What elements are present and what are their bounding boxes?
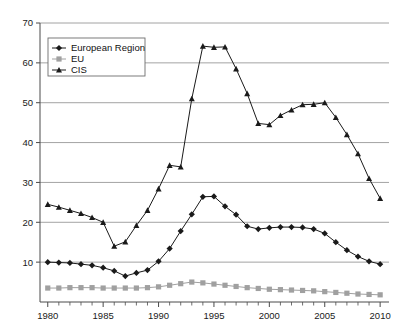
data-point-marker <box>189 279 194 284</box>
data-point-marker <box>67 260 73 266</box>
data-point-marker <box>156 186 162 192</box>
data-point-marker <box>377 195 383 201</box>
data-point-marker <box>200 280 205 285</box>
data-point-marker <box>244 91 250 97</box>
data-point-marker <box>233 66 239 72</box>
y-axis-tick-labels: 10203040506070 <box>22 17 33 267</box>
series-european-region <box>45 193 384 279</box>
x-tick-label: 2010 <box>370 310 391 321</box>
data-point-marker <box>266 225 272 231</box>
data-point-marker <box>299 224 305 230</box>
data-series-group <box>45 43 384 297</box>
data-point-marker <box>277 112 283 118</box>
line-chart: 10203040506070 1980198519901995200020052… <box>0 0 397 330</box>
data-point-marker <box>355 151 361 157</box>
chart-container: 10203040506070 1980198519901995200020052… <box>0 0 397 330</box>
data-point-marker <box>344 291 349 296</box>
data-point-marker <box>144 207 150 213</box>
data-point-marker <box>123 285 128 290</box>
data-point-marker <box>178 228 184 234</box>
x-tick-label: 1985 <box>93 310 114 321</box>
data-point-marker <box>245 285 250 290</box>
y-tick-label: 50 <box>22 97 33 108</box>
data-point-marker <box>234 284 239 289</box>
data-point-marker <box>333 290 338 295</box>
y-tick-label: 10 <box>22 257 33 268</box>
x-tick-label: 1990 <box>148 310 169 321</box>
data-point-marker <box>355 291 360 296</box>
data-point-marker <box>45 201 51 207</box>
legend-label: EU <box>71 53 84 64</box>
data-point-marker <box>156 284 161 289</box>
data-point-marker <box>378 292 383 297</box>
y-tick-label: 20 <box>22 217 33 228</box>
data-point-marker <box>101 285 106 290</box>
x-tick-label: 2000 <box>259 310 280 321</box>
data-point-marker <box>178 281 183 286</box>
data-point-marker <box>56 285 61 290</box>
data-point-marker <box>189 96 195 102</box>
x-axis-tick-marks <box>48 302 380 307</box>
chart-legend: European RegionEUCIS <box>48 38 145 76</box>
data-point-marker <box>134 285 139 290</box>
data-point-marker <box>222 283 227 288</box>
data-point-marker <box>189 211 195 217</box>
data-point-marker <box>288 224 294 230</box>
data-point-marker <box>344 132 350 138</box>
data-point-marker <box>322 289 327 294</box>
y-tick-label: 70 <box>22 17 33 28</box>
data-point-marker <box>122 239 128 245</box>
data-point-marker <box>277 224 283 230</box>
data-point-marker <box>278 287 283 292</box>
data-point-marker <box>255 226 261 232</box>
data-point-marker <box>256 286 261 291</box>
data-point-marker <box>289 107 295 113</box>
data-point-marker <box>89 215 95 221</box>
data-point-marker <box>67 285 72 290</box>
data-point-marker <box>133 270 139 276</box>
y-tick-label: 40 <box>22 137 33 148</box>
data-point-marker <box>366 258 372 264</box>
data-point-marker <box>45 285 50 290</box>
x-tick-label: 1995 <box>203 310 224 321</box>
x-tick-label: 1980 <box>37 310 58 321</box>
x-tick-label: 2005 <box>314 310 335 321</box>
data-point-marker <box>311 288 316 293</box>
legend-label: European Region <box>71 42 145 53</box>
series-eu <box>45 279 383 297</box>
legend-label: CIS <box>71 64 87 75</box>
x-axis-tick-labels: 1980198519901995200020052010 <box>37 310 391 321</box>
data-point-marker <box>289 287 294 292</box>
data-point-marker <box>200 194 206 200</box>
data-point-marker <box>56 259 62 265</box>
data-point-marker <box>100 265 106 271</box>
data-point-marker <box>300 288 305 293</box>
data-point-marker <box>111 268 117 274</box>
data-point-marker <box>167 283 172 288</box>
y-axis-tick-marks <box>36 23 40 262</box>
data-point-marker <box>45 259 51 265</box>
data-point-marker <box>355 253 361 259</box>
y-tick-label: 30 <box>22 177 33 188</box>
data-point-marker <box>145 285 150 290</box>
data-point-marker <box>89 262 95 268</box>
data-point-marker <box>366 292 371 297</box>
data-point-marker <box>267 287 272 292</box>
data-point-marker <box>56 56 61 61</box>
data-point-marker <box>211 281 216 286</box>
data-point-marker <box>89 285 94 290</box>
data-point-marker <box>366 175 372 181</box>
data-point-marker <box>122 273 128 279</box>
data-point-marker <box>111 243 117 249</box>
data-point-marker <box>311 226 317 232</box>
series-line <box>48 196 380 276</box>
data-point-marker <box>78 285 83 290</box>
data-point-marker <box>112 285 117 290</box>
y-tick-label: 60 <box>22 57 33 68</box>
